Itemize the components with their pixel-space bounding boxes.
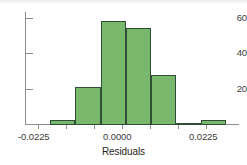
x-axis-tick-0.0000 xyxy=(122,125,123,129)
x-axis-label-neg-0.0225: -0.0225 xyxy=(18,132,50,142)
x-axis-tick-0.0075 xyxy=(150,125,151,129)
x-axis-label-0.0000: 0.0000 xyxy=(103,132,131,142)
scan-edge-artifact xyxy=(0,0,247,4)
x-axis-label-0.0225: 0.0225 xyxy=(189,132,217,142)
histogram-bar xyxy=(101,21,126,125)
histogram-bar xyxy=(151,75,176,125)
histogram-bar xyxy=(176,123,201,125)
histogram-bar xyxy=(126,28,151,125)
histogram-chart: 60 40 20 -0.0225 0.0000 0.0225 Residuals xyxy=(0,0,247,165)
x-axis-tick-0.0225 xyxy=(206,125,207,129)
x-axis-tick-neg-0.0225 xyxy=(38,125,39,129)
histogram-bars xyxy=(25,12,239,125)
x-axis-tick-neg-0.015 xyxy=(66,125,67,129)
histogram-bar xyxy=(75,87,100,125)
x-axis-tick-0.015 xyxy=(178,125,179,129)
x-axis-title: Residuals xyxy=(0,146,247,157)
histogram-bar xyxy=(201,120,226,125)
x-axis-tick-neg-0.0075 xyxy=(94,125,95,129)
histogram-bar xyxy=(50,120,75,125)
